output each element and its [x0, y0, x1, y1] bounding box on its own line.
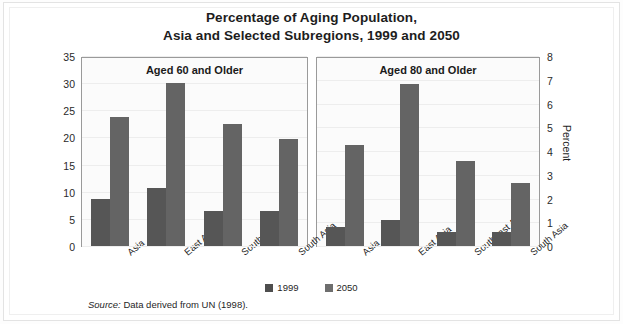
y-axis-tick-left: 30: [63, 78, 75, 90]
plot-panel-aged-80-and-older: Aged 80 and Older: [316, 57, 540, 247]
x-axis-label: East Asia: [182, 249, 189, 257]
y-axis-tick-left: 10: [63, 187, 75, 199]
bar-group-container-left: [82, 58, 307, 246]
legend-swatch-2050: [325, 284, 333, 292]
bar-group: [204, 58, 242, 246]
x-axis-label: Southeast Asia: [472, 249, 479, 257]
legend-item-2050: 2050: [325, 282, 358, 293]
panel-title-left: Aged 60 and Older: [82, 64, 307, 76]
x-axis-label: South Asia: [296, 249, 303, 257]
bar-2050: [166, 83, 185, 246]
source-text: Data derived from UN (1998).: [121, 299, 248, 310]
bar-group: [437, 58, 475, 246]
source-note: Source: Data derived from UN (1998).: [88, 299, 248, 310]
y-axis-tick-right: 7: [547, 75, 553, 87]
bar-1999: [260, 211, 279, 246]
bar-group: [492, 58, 530, 246]
bar-group: [326, 58, 364, 246]
gridline: [317, 246, 539, 247]
bar-group: [147, 58, 185, 246]
y-axis-tick-right: 2: [547, 194, 553, 206]
source-label: Source:: [88, 299, 121, 310]
bar-2050: [223, 124, 242, 246]
y-axis-tick-left: 35: [63, 51, 75, 63]
x-axis-label: South Asia: [528, 249, 535, 257]
y-axis-tick-right: 3: [547, 170, 553, 182]
legend-label-2050: 2050: [337, 282, 358, 293]
x-axis-label: Asia: [125, 249, 132, 257]
bar-2050: [110, 117, 129, 246]
bar-1999: [492, 232, 511, 246]
bar-1999: [437, 232, 456, 246]
bar-2050: [456, 161, 475, 246]
chart-title-line-2: Asia and Selected Subregions, 1999 and 2…: [0, 27, 623, 45]
x-axis-label: Southeast Asia: [239, 249, 246, 257]
legend-swatch-1999: [265, 284, 273, 292]
y-axis-tick-left: 5: [69, 214, 75, 226]
gridline: [82, 246, 307, 247]
plot-panel-aged-60-and-older: Aged 60 and Older: [81, 57, 308, 247]
bar-group-container-right: [317, 58, 539, 246]
y-axis-left: 05101520253035: [33, 57, 79, 247]
bar-1999: [381, 220, 400, 246]
chart-figure: Percentage of Aging Population, Asia and…: [0, 0, 623, 324]
y-axis-tick-left: 20: [63, 132, 75, 144]
x-axis-label: Asia: [360, 249, 367, 257]
bar-2050: [400, 84, 419, 246]
bar-2050: [279, 139, 298, 246]
bar-2050: [511, 183, 530, 246]
gridline: [82, 56, 307, 57]
bar-2050: [345, 145, 364, 246]
bar-group: [260, 58, 298, 246]
y-axis-tick-right: 8: [547, 51, 553, 63]
y-axis-right-title: Percent: [561, 125, 573, 161]
chart-title: Percentage of Aging Population, Asia and…: [0, 9, 623, 45]
bar-1999: [326, 227, 345, 246]
bar-group: [91, 58, 129, 246]
bar-1999: [91, 199, 110, 246]
y-axis-tick-right: 5: [547, 122, 553, 134]
y-axis-tick-left: 15: [63, 160, 75, 172]
y-axis-tick-right: 6: [547, 99, 553, 111]
legend-label-1999: 1999: [277, 282, 298, 293]
y-axis-tick-right: 4: [547, 146, 553, 158]
y-axis-tick-left: 25: [63, 105, 75, 117]
y-axis-tick-left: 0: [69, 241, 75, 253]
bar-1999: [204, 211, 223, 246]
legend-item-1999: 1999: [265, 282, 298, 293]
chart-title-line-1: Percentage of Aging Population,: [206, 10, 417, 25]
gridline: [317, 56, 539, 57]
panel-title-right: Aged 80 and Older: [317, 64, 539, 76]
chart-legend: 19992050: [0, 282, 623, 293]
bar-1999: [147, 188, 166, 246]
bar-group: [381, 58, 419, 246]
x-axis-label: East Asia: [416, 249, 423, 257]
